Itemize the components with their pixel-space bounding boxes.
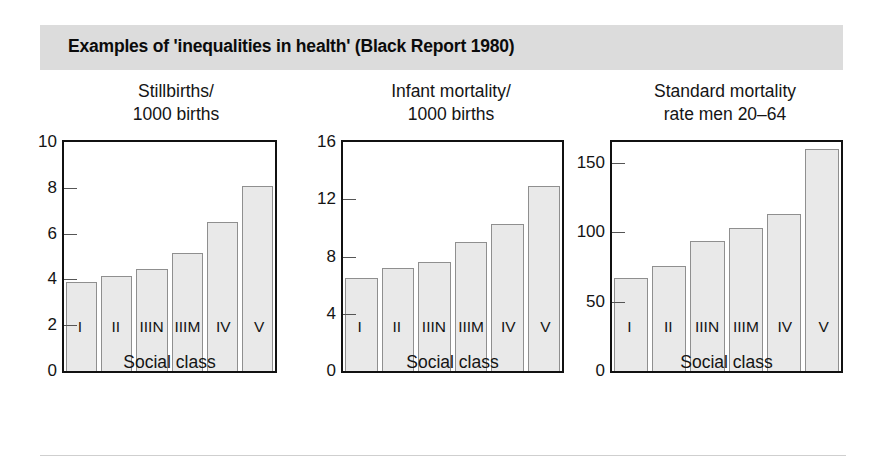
x-tick-label: I xyxy=(62,318,98,336)
chart-title: Stillbirths/1000 births xyxy=(14,80,304,126)
y-tick-mark xyxy=(64,279,77,280)
x-axis-labels: IIIIIINIIIMIVV xyxy=(62,318,277,336)
bar-slot xyxy=(803,142,841,371)
y-tick-mark xyxy=(343,199,356,200)
y-tick-label: 50 xyxy=(586,292,605,312)
bar-slot xyxy=(99,142,134,371)
chart-title-line2: 1000 births xyxy=(133,104,220,124)
y-tick-label: 0 xyxy=(596,361,605,381)
x-tick-label: II xyxy=(98,318,134,336)
figure-title: Examples of 'inequalities in health' (Bl… xyxy=(68,36,514,57)
bar-v xyxy=(242,186,273,371)
y-tick-mark xyxy=(612,163,625,164)
bar-iv xyxy=(767,214,801,371)
bar-slot xyxy=(64,142,99,371)
x-tick-label: IV xyxy=(490,318,527,336)
bar-slot xyxy=(134,142,169,371)
bar-iv xyxy=(491,224,524,371)
y-tick-mark xyxy=(612,302,625,303)
chart-title: Standard mortalityrate men 20–64 xyxy=(562,80,862,126)
y-tick-label: 4 xyxy=(327,304,336,324)
y-tick-label: 16 xyxy=(317,132,336,152)
bar-iv xyxy=(207,222,238,371)
plot-area: 050100150 xyxy=(610,140,843,373)
y-tick-label: 6 xyxy=(48,224,57,244)
bar-slot xyxy=(727,142,765,371)
chart-title-line1: Standard mortality xyxy=(654,81,796,101)
y-tick-mark xyxy=(64,188,77,189)
bar-group xyxy=(64,142,275,371)
chart-title-line2: rate men 20–64 xyxy=(664,104,787,124)
y-tick-mark xyxy=(612,232,625,233)
x-axis-labels: IIIIIINIIIMIVV xyxy=(610,318,843,336)
x-axis-caption: Social class xyxy=(62,352,277,373)
figure-page: Examples of 'inequalities in health' (Bl… xyxy=(0,0,880,476)
x-axis-caption: Social class xyxy=(610,352,843,373)
x-tick-label: I xyxy=(341,318,378,336)
x-tick-label: IIIN xyxy=(134,318,170,336)
x-tick-label: I xyxy=(610,318,649,336)
bar-v xyxy=(528,186,561,371)
bar-slot xyxy=(526,142,563,371)
y-tick-label: 12 xyxy=(317,189,336,209)
bar-slot xyxy=(416,142,453,371)
bar-slot xyxy=(205,142,240,371)
bar-slot xyxy=(380,142,417,371)
y-tick-label: 100 xyxy=(577,222,605,242)
x-tick-label: IIIN xyxy=(688,318,727,336)
bar-slot xyxy=(765,142,803,371)
bar-slot xyxy=(612,142,650,371)
y-tick-label: 150 xyxy=(577,153,605,173)
x-tick-label: IV xyxy=(205,318,241,336)
chart-title-line2: 1000 births xyxy=(408,104,495,124)
y-tick-mark xyxy=(343,314,356,315)
bar-slot xyxy=(489,142,526,371)
bar-slot xyxy=(453,142,490,371)
x-tick-label: V xyxy=(241,318,277,336)
y-tick-label: 8 xyxy=(327,247,336,267)
x-axis-labels: IIIIIINIIIMIVV xyxy=(341,318,564,336)
bar-iiim xyxy=(729,228,763,371)
chart-title: Infant mortality/1000 births xyxy=(293,80,583,126)
x-axis-caption: Social class xyxy=(341,352,564,373)
x-tick-label: IV xyxy=(765,318,804,336)
y-tick-label: 8 xyxy=(48,178,57,198)
chart-title-line1: Infant mortality/ xyxy=(391,81,511,101)
x-tick-label: IIIN xyxy=(415,318,452,336)
y-tick-label: 2 xyxy=(48,315,57,335)
x-tick-label: II xyxy=(649,318,688,336)
bar-v xyxy=(805,149,839,371)
x-tick-label: V xyxy=(804,318,843,336)
x-tick-label: V xyxy=(527,318,564,336)
y-tick-label: 10 xyxy=(38,132,57,152)
bottom-divider xyxy=(40,455,846,456)
bar-slot xyxy=(650,142,688,371)
y-tick-label: 0 xyxy=(327,361,336,381)
y-tick-label: 0 xyxy=(48,361,57,381)
y-tick-label: 4 xyxy=(48,269,57,289)
x-tick-label: II xyxy=(378,318,415,336)
plot-area: 0246810 xyxy=(62,140,277,373)
x-tick-label: IIIM xyxy=(726,318,765,336)
y-tick-mark xyxy=(343,257,356,258)
figure-title-band: Examples of 'inequalities in health' (Bl… xyxy=(40,25,843,70)
x-tick-label: IIIM xyxy=(169,318,205,336)
bar-group xyxy=(343,142,562,371)
chart-title-line1: Stillbirths/ xyxy=(138,81,214,101)
plot-area: 0481216 xyxy=(341,140,564,373)
x-tick-label: IIIM xyxy=(453,318,490,336)
y-tick-mark xyxy=(64,234,77,235)
bar-slot xyxy=(688,142,726,371)
bar-slot xyxy=(240,142,275,371)
bar-slot xyxy=(170,142,205,371)
bar-group xyxy=(612,142,841,371)
